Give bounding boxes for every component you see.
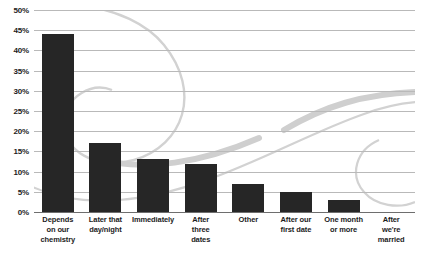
bar: [280, 192, 312, 212]
y-axis-tick-label: 30%: [14, 86, 29, 95]
x-axis-tick-label-line: chemistry: [31, 235, 85, 245]
bar: [89, 143, 121, 212]
x-axis-tick-label-line: first date: [269, 225, 323, 235]
x-axis-tick-label-line: day/night: [78, 225, 132, 235]
x-axis-tick-label: Later thatday/night: [78, 215, 132, 235]
bar: [137, 159, 169, 212]
x-axis-tick-label-line: After: [364, 215, 418, 225]
y-axis-tick-label: 5%: [18, 187, 29, 196]
x-axis-tick-label-line: married: [364, 235, 418, 245]
x-axis-tick-label-line: Later that: [78, 215, 132, 225]
x-axis-tick-label: After ourfirst date: [269, 215, 323, 235]
bar-chart: 0%5%10%15%20%25%30%35%40%45%50% Dependso…: [0, 0, 423, 255]
y-axis-tick-label: 40%: [14, 46, 29, 55]
x-axis-tick-label: Afterthreedates: [174, 215, 228, 245]
bar: [185, 164, 217, 212]
x-axis-tick-label-line: three: [174, 225, 228, 235]
x-axis-tick-label-line: dates: [174, 235, 228, 245]
x-axis-labels: Dependson ourchemistryLater thatday/nigh…: [34, 215, 415, 255]
y-axis-tick-label: 15%: [14, 147, 29, 156]
x-axis-tick-label-line: After our: [269, 215, 323, 225]
x-axis-tick-label-line: we're: [364, 225, 418, 235]
x-axis-tick-label: Immediately: [126, 215, 180, 225]
bar: [232, 184, 264, 212]
x-axis-tick-label-line: on our: [31, 225, 85, 235]
x-axis-tick-label-line: or more: [317, 225, 371, 235]
y-axis-tick-label: 25%: [14, 107, 29, 116]
bar: [328, 200, 360, 212]
y-axis-tick-label: 0%: [18, 208, 29, 217]
axis-baseline: [34, 212, 415, 213]
x-axis-tick-label-line: One month: [317, 215, 371, 225]
y-axis-tick-label: 45%: [14, 26, 29, 35]
y-axis-tick-label: 35%: [14, 66, 29, 75]
plot-area: [34, 10, 415, 212]
y-axis-labels: 0%5%10%15%20%25%30%35%40%45%50%: [0, 0, 34, 222]
x-axis-tick-label: Dependson ourchemistry: [31, 215, 85, 245]
bar: [42, 34, 74, 212]
x-axis-tick-label: Afterwe'remarried: [364, 215, 418, 245]
y-axis-tick-label: 10%: [14, 167, 29, 176]
x-axis-tick-label-line: Immediately: [126, 215, 180, 225]
y-axis-tick-label: 50%: [14, 6, 29, 15]
bars-group: [34, 10, 415, 212]
x-axis-tick-label-line: After: [174, 215, 228, 225]
x-axis-tick-label: Other: [221, 215, 275, 225]
x-axis-tick-label-line: Depends: [31, 215, 85, 225]
x-axis-tick-label: One monthor more: [317, 215, 371, 235]
x-axis-tick-label-line: Other: [221, 215, 275, 225]
y-axis-tick-label: 20%: [14, 127, 29, 136]
